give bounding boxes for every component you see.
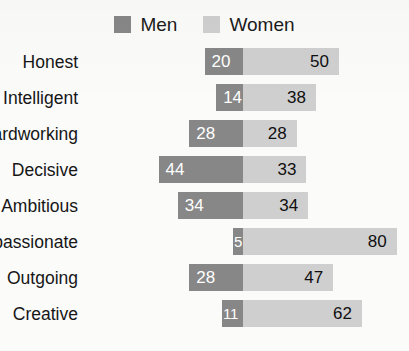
- chart-row: Creative1162: [0, 297, 409, 331]
- bar-women: 38: [243, 84, 316, 111]
- bar-men: 5: [233, 228, 243, 255]
- chart-row: Ambitious3434: [0, 189, 409, 223]
- bar-women: 33: [243, 156, 306, 183]
- bar-value-women: 47: [304, 264, 323, 291]
- row-bars: 1162: [0, 300, 409, 327]
- row-bars: 4433: [0, 156, 409, 183]
- row-bars: 2828: [0, 120, 409, 147]
- legend-swatch-women-icon: [203, 16, 220, 33]
- bar-men: 28: [189, 264, 243, 291]
- bar-value-men: 34: [185, 192, 204, 219]
- legend-swatch-men-icon: [114, 16, 131, 33]
- chart-row: Decisive4433: [0, 153, 409, 187]
- row-bars: 3434: [0, 192, 409, 219]
- chart-row: Compassionate580: [0, 225, 409, 259]
- bar-women: 34: [243, 192, 308, 219]
- chart-row: Hardworking2828: [0, 117, 409, 151]
- bar-value-men: 20: [212, 48, 231, 75]
- bar-men: 14: [216, 84, 243, 111]
- chart-row: Outgoing2847: [0, 261, 409, 295]
- bar-value-men: 11: [223, 300, 239, 327]
- bar-value-men: 28: [196, 264, 215, 291]
- bar-value-women: 62: [333, 300, 352, 327]
- bar-women: 62: [243, 300, 362, 327]
- row-bars: 2050: [0, 48, 409, 75]
- bar-women: 80: [243, 228, 397, 255]
- bar-women: 47: [243, 264, 333, 291]
- bar-women: 50: [243, 48, 339, 75]
- bar-value-women: 28: [268, 120, 287, 147]
- legend-item-men: Men: [114, 15, 177, 34]
- chart-row: Intelligent1438: [0, 81, 409, 115]
- bar-women: 28: [243, 120, 297, 147]
- bar-value-women: 33: [277, 156, 296, 183]
- chart-plot-area: Honest2050Intelligent1438Hardworking2828…: [0, 44, 409, 344]
- row-bars: 1438: [0, 84, 409, 111]
- row-bars: 2847: [0, 264, 409, 291]
- legend-item-women: Women: [203, 15, 294, 34]
- bar-value-men: 5: [234, 228, 242, 255]
- bar-value-men: 44: [166, 156, 185, 183]
- chart-legend: Men Women: [0, 12, 409, 36]
- bar-men: 20: [205, 48, 243, 75]
- row-bars: 580: [0, 228, 409, 255]
- bar-value-women: 34: [279, 192, 298, 219]
- bar-value-men: 28: [196, 120, 215, 147]
- bar-men: 44: [159, 156, 243, 183]
- legend-label-men: Men: [140, 15, 177, 34]
- bar-value-men: 14: [223, 84, 242, 111]
- bar-value-women: 38: [287, 84, 306, 111]
- diverging-bar-chart: Men Women Honest2050Intelligent1438Hardw…: [0, 0, 409, 351]
- chart-row: Honest2050: [0, 45, 409, 79]
- bar-value-women: 50: [310, 48, 329, 75]
- bar-men: 34: [178, 192, 243, 219]
- bar-value-women: 80: [368, 228, 387, 255]
- bar-men: 28: [189, 120, 243, 147]
- legend-label-women: Women: [229, 15, 294, 34]
- bar-men: 11: [222, 300, 243, 327]
